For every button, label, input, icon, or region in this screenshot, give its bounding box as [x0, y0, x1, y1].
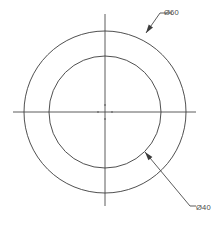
- outer-diameter-label: Ø60: [164, 8, 179, 17]
- technical-drawing-canvas: Ø60 Ø40: [0, 0, 221, 225]
- inner-diameter-label: Ø40: [196, 203, 211, 212]
- drawing-viewport: Ø60 Ø40: [0, 0, 221, 225]
